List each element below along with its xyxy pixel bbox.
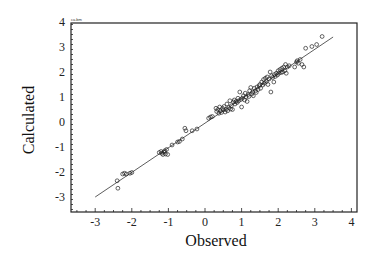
y-axis: -3-2-101234 [55, 15, 73, 210]
y-tick-label: -1 [55, 140, 65, 154]
x-tick-label: -1 [163, 215, 173, 229]
x-tick-label: -3 [90, 215, 100, 229]
scatter-plot: -3-2-101234 -3-2-101234 ca.bm Observed C… [0, 0, 376, 258]
y-tick-label: 3 [59, 40, 65, 54]
x-tick-label: 2 [275, 215, 281, 229]
x-tick-label: 4 [348, 215, 354, 229]
x-axis-title: Observed [185, 232, 246, 249]
y-axis-title: Calculated [20, 86, 37, 154]
y-tick-label: 4 [59, 15, 65, 29]
y-tick-label: -2 [55, 165, 65, 179]
x-tick-label: 1 [239, 215, 245, 229]
y-tick-label: 0 [59, 115, 65, 129]
corner-note: ca.bm [71, 17, 83, 22]
x-tick-label: 0 [202, 215, 208, 229]
y-tick-label: 1 [59, 90, 65, 104]
x-tick-label: -2 [127, 215, 137, 229]
y-tick-label: 2 [59, 65, 65, 79]
x-tick-label: 3 [312, 215, 318, 229]
y-tick-label: -3 [55, 190, 65, 204]
